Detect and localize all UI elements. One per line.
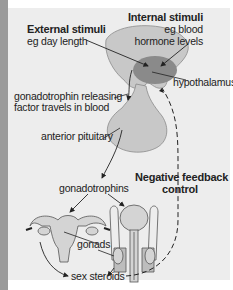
- negative-feedback-line-1: Negative feedback: [135, 172, 225, 183]
- gonadotrophins-label: gonadotrophins: [59, 183, 129, 194]
- negative-feedback-line-2: control: [135, 184, 225, 195]
- hypothalamus-shape: [133, 56, 177, 84]
- internal-stimuli-title: Internal stimuli: [128, 12, 203, 23]
- gonadotrophin-female-arrow: [70, 194, 88, 212]
- external-stimuli-title: External stimuli: [27, 24, 106, 35]
- hypothalamus-label: hypothalamus: [173, 77, 233, 88]
- sex-steroids-label: sex steroids: [71, 271, 125, 282]
- gonadotrophin-male-arrow: [108, 194, 124, 206]
- diagram-frame: External stimuli eg day length Internal …: [0, 0, 233, 290]
- internal-stimuli-example-2: hormone levels: [135, 36, 203, 47]
- gnrh-label-line-2: factor travels in blood: [14, 102, 109, 113]
- external-stimuli-example: eg day length: [27, 36, 87, 47]
- anterior-pituitary-label: anterior pituitary: [41, 131, 113, 142]
- internal-stimuli-example-1: eg blood: [164, 24, 203, 35]
- gonads-label: gonads: [77, 239, 110, 250]
